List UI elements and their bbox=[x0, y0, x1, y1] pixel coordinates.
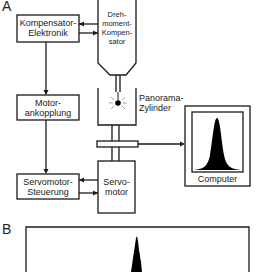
panel-b-peak-chart bbox=[131, 236, 142, 272]
label-line: Kompen- bbox=[98, 28, 136, 37]
servomotor-steuerung-label: Servomotor- Steuerung bbox=[17, 177, 79, 197]
panel-a-label: A bbox=[2, 0, 11, 13]
panel-b-label: B bbox=[2, 222, 11, 236]
label-line: Dreh- bbox=[98, 10, 136, 19]
panorama-zylinder-box bbox=[98, 88, 136, 125]
label-line: motor bbox=[98, 187, 135, 197]
label-line: ankopplung bbox=[17, 108, 79, 118]
label-line: sator bbox=[98, 37, 136, 46]
panorama-zylinder-label: Panorama- Zylinder bbox=[139, 93, 184, 113]
drehmoment-kompensator-label: Dreh- moment- Kompen- sator bbox=[98, 10, 136, 46]
coupling-disc bbox=[97, 141, 138, 147]
pendulum-probe-icon bbox=[109, 92, 127, 109]
label-line: Zylinder bbox=[139, 103, 184, 113]
computer-label: Computer bbox=[185, 174, 250, 184]
label-line: moment- bbox=[98, 19, 136, 28]
computer-peak-chart bbox=[194, 118, 241, 170]
label-line: Servomotor- bbox=[17, 177, 79, 187]
label-line: Kompensator- bbox=[17, 18, 79, 28]
label-line: Motor- bbox=[17, 98, 79, 108]
servomotor-label: Servo- motor bbox=[98, 177, 135, 197]
label-line: Steuerung bbox=[17, 187, 79, 197]
label-line: Servo- bbox=[98, 177, 135, 187]
kompensator-elektronik-label: Kompensator- Elektronik bbox=[17, 18, 79, 38]
label-line: Panorama- bbox=[139, 93, 184, 103]
motorankopplung-label: Motor- ankopplung bbox=[17, 98, 79, 118]
label-line: Elektronik bbox=[17, 28, 79, 38]
